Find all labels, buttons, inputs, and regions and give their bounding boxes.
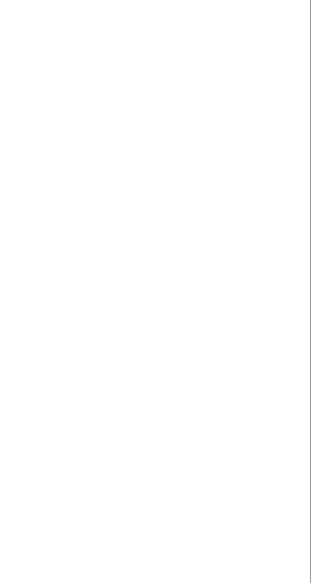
- eeg-figure: [0, 0, 316, 583]
- eeg-traces: [0, 0, 316, 583]
